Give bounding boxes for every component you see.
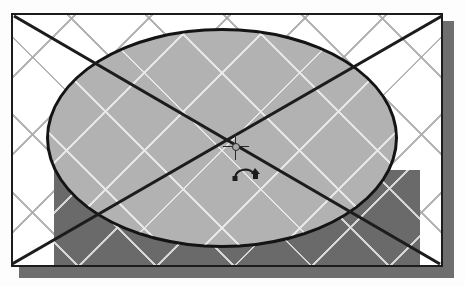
rotate-arrow-icon: [231, 161, 261, 183]
rotate-cursor: Rotate: [231, 161, 261, 183]
rotation-center-ring-icon: [232, 143, 240, 151]
page-shadow-right: [445, 21, 454, 271]
app-title: Drawing Canvas: [0, 0, 1, 1]
selected-ellipse[interactable]: [46, 28, 398, 248]
page-shadow-bottom: [19, 269, 454, 278]
screenshot-root: Drawing Canvas Rotation center: [0, 0, 465, 286]
rotation-center-marker[interactable]: Rotation center: [223, 134, 249, 160]
ellipse-shape[interactable]: [46, 28, 398, 248]
rotate-handle-left-icon: [233, 176, 238, 181]
rotate-handle-right-icon: [253, 174, 258, 179]
rotation-center-label: Rotation center: [223, 134, 224, 135]
grid-overlay-on-ellipse: [46, 28, 398, 248]
drawing-canvas[interactable]: Rotation center Rotate: [11, 13, 443, 267]
